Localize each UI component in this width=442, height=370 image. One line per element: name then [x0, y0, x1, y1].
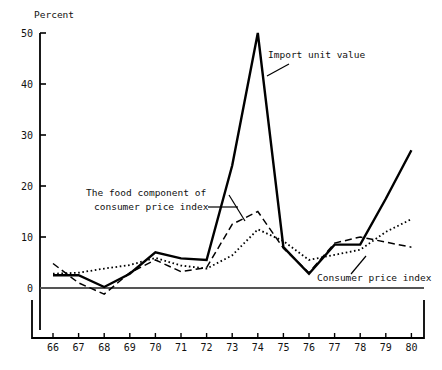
y-axis-tick-label: 10 [21, 232, 33, 243]
y-axis-tick-label: 0 [27, 283, 33, 294]
annotation-food-component-line2: consumer price index [94, 201, 209, 212]
x-axis-tick-label: 69 [124, 342, 136, 353]
series-line-solid [53, 33, 411, 287]
y-axis-label: Percent [34, 9, 74, 20]
x-axis-tick-label: 73 [226, 342, 238, 353]
x-axis-tick-label: 66 [47, 342, 59, 353]
x-axis-tick-label: 70 [149, 342, 161, 353]
annotation-import-unit-value: Import unit value [268, 49, 366, 60]
x-axis-tick-label: 79 [380, 342, 392, 353]
x-axis-tick-label: 74 [252, 342, 264, 353]
annotation-consumer-price-index: Consumer price index [317, 272, 432, 283]
leader-import-unit-value [267, 64, 289, 76]
y-axis-tick-label: 40 [21, 79, 33, 90]
y-axis-tick-label: 30 [21, 130, 33, 141]
leader-food-component-2 [229, 195, 245, 221]
x-axis-frame [32, 300, 424, 338]
annotation-food-component-line1: The food component of [86, 187, 206, 198]
x-axis-tick-label: 77 [329, 342, 341, 353]
x-axis-tick-label: 72 [201, 342, 213, 353]
x-axis-tick-label: 80 [405, 342, 417, 353]
x-axis-tick-label: 71 [175, 342, 187, 353]
x-axis-tick-label: 78 [354, 342, 366, 353]
x-axis-tick-label: 75 [277, 342, 289, 353]
x-axis-tick-label: 68 [98, 342, 110, 353]
x-axis-tick-label: 76 [303, 342, 315, 353]
x-axis-tick-label: 67 [73, 342, 85, 353]
chart-figure: Percent010203040506667686970717273747576… [0, 0, 442, 370]
line-chart-canvas: Percent010203040506667686970717273747576… [0, 0, 442, 370]
y-axis-tick-label: 20 [21, 181, 33, 192]
y-axis-tick-label: 50 [21, 28, 33, 39]
